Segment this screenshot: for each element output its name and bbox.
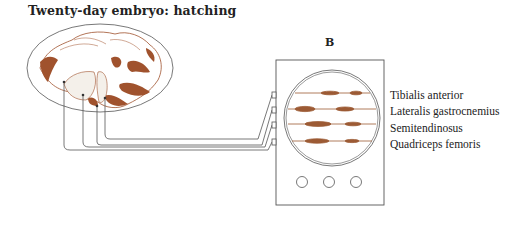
muscle-label-semitendinosus: Semitendinosus bbox=[390, 122, 463, 134]
scope-screen bbox=[284, 70, 380, 166]
muscle-label-lateralis-gastrocnemius: Lateralis gastrocnemius bbox=[390, 105, 500, 117]
oscilloscope bbox=[272, 60, 384, 205]
knob-icon bbox=[297, 177, 308, 188]
muscle-label-quadriceps-femoris: Quadriceps femoris bbox=[390, 138, 480, 150]
knob-icon bbox=[324, 177, 335, 188]
muscle-label-tibialis-anterior: Tibialis anterior bbox=[390, 89, 463, 101]
knob-icon bbox=[351, 177, 362, 188]
input-connectors bbox=[272, 92, 276, 145]
embryo-egg bbox=[27, 24, 173, 112]
control-knobs bbox=[297, 177, 362, 188]
